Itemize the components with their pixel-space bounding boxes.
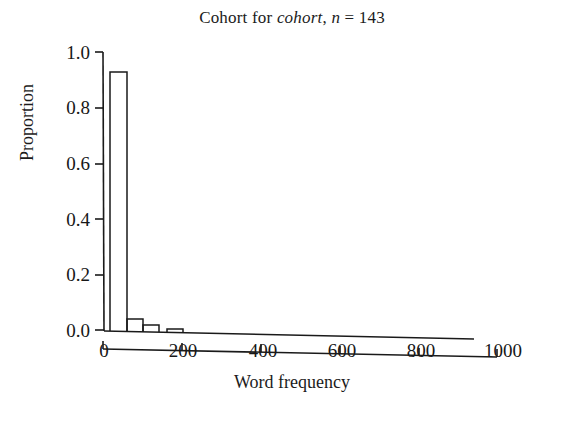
bar-bin-0 [110, 72, 127, 331]
y-axis-line [103, 52, 104, 331]
histogram-bars [110, 72, 183, 333]
x-axis-line [103, 349, 497, 357]
plot-area [0, 0, 584, 429]
bar-bin-40 [127, 319, 143, 332]
x-axis-ticks [103, 341, 497, 357]
histogram-figure: Cohort for cohort, n = 143 1.0 0.8 0.6 0… [0, 0, 584, 429]
bar-bin-80 [143, 325, 159, 332]
series-baseline [104, 331, 474, 339]
